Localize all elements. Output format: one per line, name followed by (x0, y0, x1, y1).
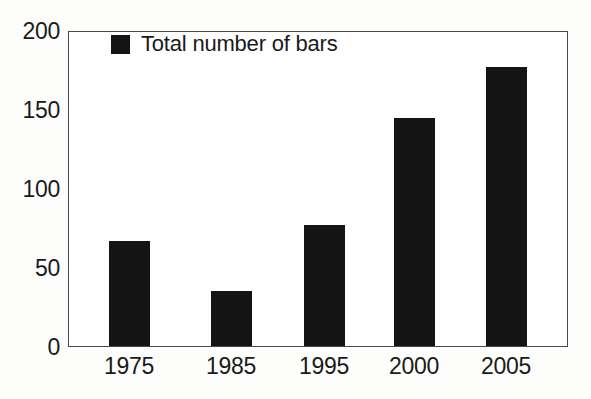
x-tick-label-1985: 1985 (206, 355, 256, 378)
x-tick-label-1995: 1995 (299, 355, 349, 378)
chart-legend: Total number of bars (111, 33, 338, 55)
y-tick-label-100: 100 (23, 178, 60, 201)
x-tick-label-2005: 2005 (481, 355, 531, 378)
bar-chart: 200 150 100 50 0 Total number of bars 19… (0, 0, 591, 399)
y-tick-label-50: 50 (35, 257, 60, 280)
bar-2000 (394, 118, 435, 346)
bar-2005 (486, 67, 527, 346)
y-tick-label-150: 150 (23, 99, 60, 122)
bar-1985 (211, 291, 252, 346)
y-axis: 200 150 100 50 0 (0, 0, 60, 399)
bar-1995 (304, 225, 345, 346)
bar-1975 (109, 241, 150, 346)
legend-label: Total number of bars (141, 33, 338, 55)
y-tick-label-200: 200 (23, 20, 60, 43)
legend-color-swatch (111, 35, 130, 54)
x-tick-label-2000: 2000 (389, 355, 439, 378)
plot-area: Total number of bars (68, 31, 568, 347)
y-tick-label-0: 0 (48, 336, 61, 359)
x-tick-label-1975: 1975 (104, 355, 154, 378)
